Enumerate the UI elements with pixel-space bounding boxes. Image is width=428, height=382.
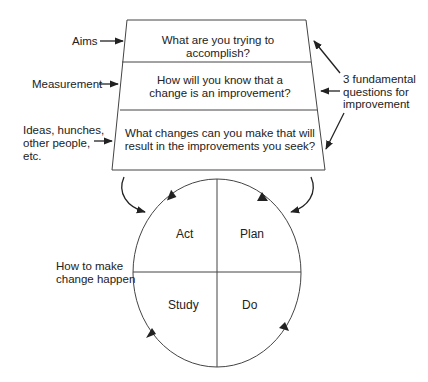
right-arrow-top-icon: [314, 41, 340, 73]
changes-question-line1: What changes can you make that will: [120, 127, 320, 140]
changes-question-line2: result in the improvements you seek?: [120, 140, 320, 153]
quadrant-do: Do: [242, 298, 257, 312]
right-curved-arrow-icon: [291, 177, 313, 212]
cycle-label-line1: How to make: [56, 260, 123, 273]
ideas-label-line1: Ideas, hunches,: [23, 124, 104, 137]
cycle-label-line2: change happen: [56, 273, 135, 286]
fundamental-label-line1: 3 fundamental: [343, 73, 416, 86]
measurement-question-line2: change is an improvement?: [128, 87, 312, 100]
aims-label: Aims: [72, 35, 98, 48]
quadrant-plan: Plan: [240, 227, 264, 241]
measurement-label: Measurement: [32, 78, 102, 91]
pdsa-cycle: [133, 179, 301, 367]
ideas-label-line3: etc.: [23, 150, 42, 163]
aims-question: What are you trying to accomplish?: [130, 34, 306, 60]
fundamental-label-line3: improvement: [343, 98, 409, 111]
ideas-label-line2: other people,: [23, 137, 90, 150]
quadrant-study: Study: [168, 298, 199, 312]
quadrant-act: Act: [176, 227, 193, 241]
left-curved-arrow-icon: [122, 177, 145, 212]
right-arrow-bottom-icon: [326, 113, 344, 149]
measurement-question-line1: How will you know that a: [128, 74, 312, 87]
cycle-arrowhead-icon: [165, 189, 177, 201]
